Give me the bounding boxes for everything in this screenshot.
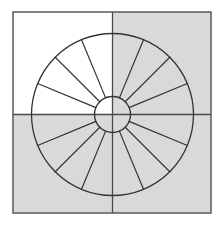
sector-wheel-diagram — [0, 0, 223, 229]
